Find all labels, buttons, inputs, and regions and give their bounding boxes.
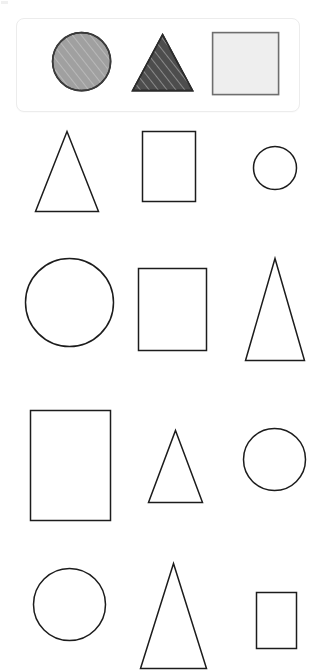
grid-rectangle-shape	[254, 590, 299, 651]
legend-square-shape	[210, 30, 281, 97]
grid-rectangle-shape	[140, 129, 198, 204]
grid-circle-shape	[31, 566, 108, 643]
grid-triangle-shape	[243, 256, 307, 363]
legend-circle-shape	[50, 30, 113, 93]
reference-shapes-card	[16, 18, 300, 112]
grid-triangle-shape	[146, 428, 205, 505]
grid-circle-shape	[23, 256, 116, 349]
grid-triangle-shape	[33, 129, 101, 214]
legend-triangle-shape	[130, 32, 195, 93]
grid-circle-shape	[241, 426, 308, 493]
grid-rectangle-shape	[28, 408, 113, 523]
corner-artifact	[1, 1, 8, 4]
grid-circle-shape	[251, 144, 299, 192]
grid-triangle-shape	[138, 561, 209, 671]
grid-rectangle-shape	[136, 266, 209, 353]
